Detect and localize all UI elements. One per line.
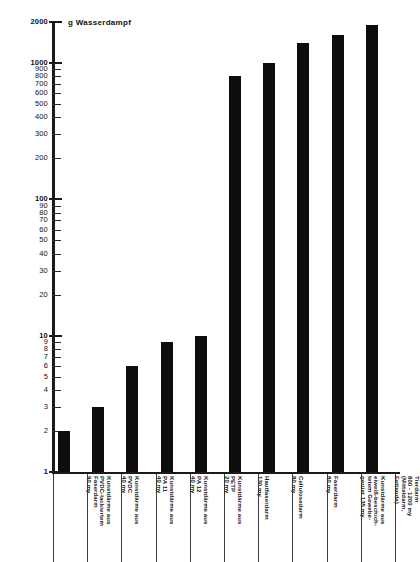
y-tick-label-200: 200	[2, 154, 48, 162]
y-tick-label-50: 50	[2, 236, 48, 244]
y-tick-label-wrap: 600	[0, 89, 48, 97]
y-tick-label-wrap: 8	[0, 345, 48, 353]
y-tick-label-2: 2	[2, 427, 48, 435]
bar	[58, 431, 70, 472]
bar	[161, 342, 173, 472]
category-label-cell: Kunstdärme aus PVDC 40 my	[87, 474, 121, 562]
y-tick-label-1: 1	[2, 468, 48, 476]
y-tick-label-wrap: 1	[0, 468, 48, 476]
y-tick-label-wrap: 70	[0, 216, 48, 224]
y-tick-label-40: 40	[2, 250, 48, 258]
y-tick-label-600: 600	[2, 89, 48, 97]
y-tick-label-wrap: 60	[0, 226, 48, 234]
y-tick-label-6: 6	[2, 362, 48, 370]
category-label-end-rule	[395, 474, 396, 562]
category-label-cell: Cellulosedarm 80 my	[258, 474, 292, 562]
y-tick-label-60: 60	[2, 226, 48, 234]
plot-area	[55, 22, 400, 473]
y-tick-label-wrap: 400	[0, 113, 48, 121]
y-tick-label-wrap: 7	[0, 353, 48, 361]
y-tick-label-8: 8	[2, 345, 48, 353]
bar	[297, 43, 309, 472]
category-label-cell: Hautfaserdarm 130 my	[224, 474, 258, 562]
y-tick-label-wrap: 2	[0, 427, 48, 435]
y-tick-label-wrap: 500	[0, 100, 48, 108]
category-label-cell: Kunstdärme aus PETP 20 my	[190, 474, 224, 562]
bar	[263, 63, 275, 472]
bar	[229, 76, 241, 472]
category-label-band: Kunstdärme aus PVDC-lackiertem Faserdarm…	[52, 474, 400, 562]
y-tick-label-20: 20	[2, 291, 48, 299]
y-tick-label-70: 70	[2, 216, 48, 224]
y-tick-label-30: 30	[2, 267, 48, 275]
y-tick-label-wrap: 3	[0, 403, 48, 411]
y-tick-label-wrap: 6	[0, 362, 48, 370]
y-tick-label-wrap: 700	[0, 80, 48, 88]
y-tick-label-3: 3	[2, 403, 48, 411]
y-tick-label-wrap: 50	[0, 236, 48, 244]
bar	[126, 366, 138, 472]
y-tick-label-wrap: 300	[0, 130, 48, 138]
category-label-cell: Kunstdärme aus PVDC-lackiertem Faserdarm…	[53, 474, 87, 562]
category-label-cell: Faserdarm 80 my	[292, 474, 326, 562]
y-tick-label-wrap: 40	[0, 250, 48, 258]
y-tick-label-wrap: 2000	[0, 18, 48, 26]
bar	[92, 407, 104, 472]
category-label-cell: Kunstdärme aus PA 11 40 my	[121, 474, 155, 562]
y-tick-label-wrap: 20	[0, 291, 48, 299]
y-tick-label-500: 500	[2, 100, 48, 108]
y-tick-label-2000: 2000	[2, 18, 48, 26]
y-tick-label-wrap: 4	[0, 386, 48, 394]
y-tick-label-wrap: 5	[0, 373, 48, 381]
y-tick-label-wrap: 30	[0, 267, 48, 275]
bar	[195, 336, 207, 472]
bar	[332, 35, 344, 472]
category-label-cell: Tierdarm 800 - 1200 my (Mitteldarm, Fett…	[361, 474, 395, 562]
bar	[366, 25, 378, 472]
y-tick-label-5: 5	[2, 373, 48, 381]
category-label-text: Tierdarm 800 - 1200 my (Mitteldarm, Fett…	[394, 474, 420, 562]
y-tick-label-700: 700	[2, 80, 48, 88]
y-tick-label-4: 4	[2, 386, 48, 394]
category-label-cell: Kunstdärme aus eiweiß-beschich- tetem Ge…	[327, 474, 361, 562]
category-label-cell: Kunstdärme aus PA 12 40 my	[156, 474, 190, 562]
y-tick-label-400: 400	[2, 113, 48, 121]
y-tick-label-300: 300	[2, 130, 48, 138]
y-tick-label-7: 7	[2, 353, 48, 361]
y-tick-label-wrap: 200	[0, 154, 48, 162]
